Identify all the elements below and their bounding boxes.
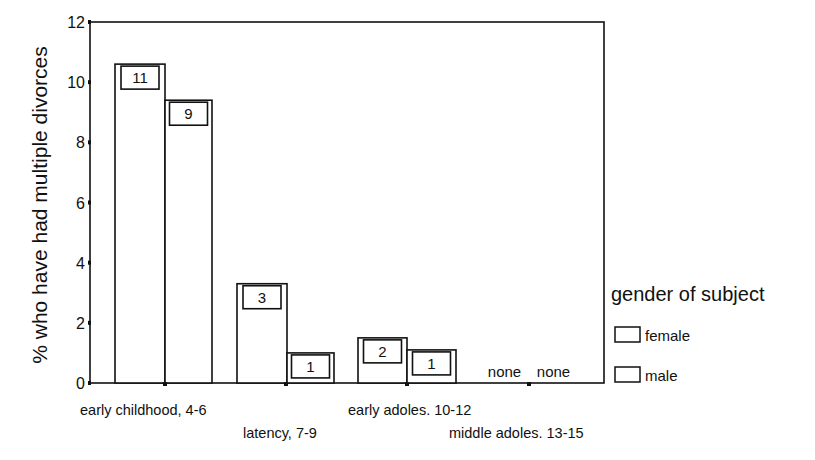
y-tick — [88, 261, 91, 265]
y-tick-label: 0 — [76, 375, 85, 392]
x-tick — [284, 382, 288, 386]
x-tick-label: middle adoles. 13-15 — [449, 425, 584, 441]
x-tick-label: early childhood, 4-6 — [80, 402, 207, 418]
y-tick-label: 4 — [76, 255, 85, 272]
y-tick-label: 6 — [76, 195, 85, 212]
y-tick-label: 8 — [76, 134, 85, 151]
y-axis: 024681012 — [67, 14, 91, 392]
x-axis: early childhood, 4-6latency, 7-9early ad… — [80, 382, 584, 441]
y-tick — [88, 20, 91, 24]
y-tick-label: 2 — [76, 315, 85, 332]
bar-chart: 1193121nonenone 024681012 early childhoo… — [0, 0, 815, 460]
count-label: 11 — [132, 69, 148, 86]
legend-title: gender of subject — [611, 283, 765, 305]
count-label: 1 — [427, 355, 435, 372]
legend-label-male: male — [645, 367, 678, 384]
count-label-none: none — [537, 363, 570, 380]
count-label-none: none — [488, 363, 521, 380]
y-tick-label: 12 — [67, 14, 85, 31]
y-tick — [88, 140, 91, 144]
bar-male — [165, 100, 212, 383]
legend-swatch-male — [615, 367, 640, 382]
y-tick — [88, 381, 91, 385]
legend-label-female: female — [645, 327, 690, 344]
count-label: 1 — [306, 358, 314, 375]
y-tick — [88, 201, 91, 205]
legend: gender of subject femalemale — [611, 283, 765, 384]
plot-area: 1193121nonenone — [90, 22, 604, 383]
x-tick-label: latency, 7-9 — [243, 425, 317, 441]
legend-swatch-female — [615, 327, 640, 342]
y-tick-label: 10 — [67, 74, 85, 91]
count-label: 2 — [378, 343, 386, 360]
y-axis-label: % who have had multiple divorces — [28, 46, 51, 364]
y-tick — [88, 321, 91, 325]
y-tick — [88, 80, 91, 84]
x-tick — [405, 382, 409, 386]
count-label: 9 — [184, 105, 192, 122]
bar-female — [115, 64, 165, 383]
x-tick — [527, 382, 531, 386]
count-label: 3 — [258, 289, 266, 306]
x-tick-label: early adoles. 10-12 — [348, 402, 471, 418]
x-tick — [163, 382, 167, 386]
